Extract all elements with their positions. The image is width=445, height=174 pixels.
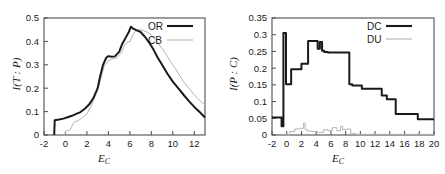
series-line-du [285,123,434,135]
y-tick-label: 0.2 [26,83,39,94]
y-tick-label: 0.4 [26,36,39,47]
x-tick-label: 12 [370,138,381,149]
right-x-axis-label: EC [332,152,344,166]
x-tick-label: 12 [189,138,200,149]
x-tick-label: 2 [299,138,304,149]
x-tick-label: 16 [399,138,410,149]
x-tick-label: 6 [127,138,132,149]
y-tick-label: 0.2 [254,63,267,74]
legend-label-or: OR [148,21,163,32]
y-tick-label: 0 [262,129,267,140]
y-tick-label: 0.3 [254,29,267,40]
y-tick-label: 0.05 [249,113,268,124]
right-x-axis-label-text: E [332,152,339,164]
x-tick-label: 14 [385,138,396,149]
left-x-axis-label-subscript: C [105,157,110,166]
right-chart-panel: -20246810121416182000.050.10.150.20.250.… [222,0,445,174]
x-tick-label: -2 [40,138,48,149]
x-tick-label: 10 [355,138,366,149]
y-tick-label: 0 [34,129,39,140]
series-line-cb [65,30,205,135]
left-x-axis-label-text: E [98,152,105,164]
left-chart-panel: -202468101200.10.20.30.40.5ORCB I(T : P)… [0,0,222,174]
left-x-axis-label: EC [98,152,110,166]
x-tick-label: 8 [343,138,348,149]
right-y-axis-label: I(P : C) [227,44,239,104]
x-tick-label: 20 [429,138,440,149]
y-tick-label: 0.15 [249,79,268,90]
x-tick-label: 10 [168,138,179,149]
legend-label-dc: DC [367,21,381,32]
figure-container: -202468101200.10.20.30.40.5ORCB I(T : P)… [0,0,445,174]
x-tick-label: 8 [149,138,154,149]
x-tick-label: 4 [314,138,319,149]
left-y-axis-label: I(T : P) [10,44,22,104]
right-y-axis-label-text: I(P : C) [227,57,239,91]
x-tick-label: 0 [63,138,68,149]
y-tick-label: 0.1 [254,96,267,107]
right-x-axis-label-subscript: C [339,157,344,166]
legend-label-du: DU [367,34,381,45]
y-tick-label: 0.35 [249,12,268,23]
x-tick-label: -2 [268,138,276,149]
legend-label-cb: CB [148,35,162,46]
y-tick-label: 0.5 [26,12,39,23]
plot-frame [272,18,434,135]
y-tick-label: 0.3 [26,59,39,70]
y-tick-label: 0.1 [26,106,39,117]
series-line-or [54,27,205,135]
left-chart-plot: -202468101200.10.20.30.40.5ORCB [0,0,222,174]
x-tick-label: 18 [414,138,425,149]
right-chart-plot: -20246810121416182000.050.10.150.20.250.… [222,0,445,174]
left-y-axis-label-text: I(T : P) [10,58,22,91]
y-tick-label: 0.25 [249,46,268,57]
x-tick-label: 4 [106,138,111,149]
x-tick-label: 0 [284,138,289,149]
x-tick-label: 6 [328,138,333,149]
x-tick-label: 2 [84,138,89,149]
series-line-dc [272,33,434,126]
